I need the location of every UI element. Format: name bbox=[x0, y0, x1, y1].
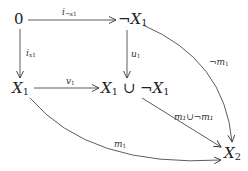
node-x1-sub: 1 bbox=[23, 86, 29, 97]
label-m1: m1 bbox=[114, 140, 126, 150]
node-union-sub2: 1 bbox=[163, 86, 169, 97]
node-zero: 0 bbox=[14, 12, 24, 27]
node-x1-label: X bbox=[12, 79, 23, 97]
label-m1-main: m bbox=[114, 139, 123, 149]
label-v1-sub: 1 bbox=[71, 80, 75, 86]
node-union: X1 ∪ ¬X1 bbox=[101, 81, 169, 97]
node-x2-label: X bbox=[224, 144, 235, 162]
arrow-m1-union bbox=[142, 98, 221, 147]
node-not-x1-sub: 1 bbox=[141, 17, 147, 28]
label-u1: u1 bbox=[131, 50, 141, 60]
label-not-m1-main: ¬m bbox=[209, 57, 225, 67]
node-not-x1-label: ¬X bbox=[118, 10, 141, 28]
label-not-m1: ¬m1 bbox=[209, 58, 229, 68]
label-i-x1-sub: x1 bbox=[29, 52, 36, 58]
node-x2-sub: 2 bbox=[235, 151, 241, 162]
node-x2: X2 bbox=[224, 146, 241, 162]
node-union-rest: ∪ ¬X bbox=[118, 79, 163, 97]
label-m1-sub: 1 bbox=[123, 143, 127, 149]
label-m1-union: m₁∪¬m₁ bbox=[174, 113, 213, 122]
label-u1-sub: 1 bbox=[137, 53, 141, 59]
label-i-x1: ix1 bbox=[26, 49, 36, 59]
node-zero-label: 0 bbox=[14, 10, 24, 28]
label-v1: v1 bbox=[66, 77, 75, 87]
label-not-m1-sub: 1 bbox=[225, 61, 229, 67]
node-x1: X1 bbox=[12, 81, 29, 97]
label-m1-union-main: m₁∪¬m₁ bbox=[174, 112, 213, 122]
node-union-label: X bbox=[101, 79, 112, 97]
label-i-not-x1-sub: ¬x1 bbox=[65, 11, 77, 17]
label-i-not-x1: i¬x1 bbox=[62, 8, 77, 18]
node-not-x1: ¬X1 bbox=[118, 12, 147, 28]
